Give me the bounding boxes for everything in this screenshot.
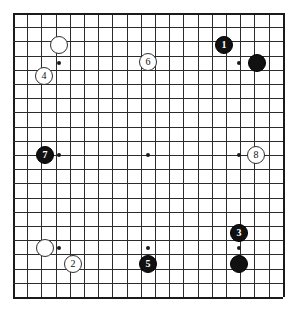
stone-black-move-1[interactable]: 1 xyxy=(215,36,233,54)
stone-white-move-4[interactable]: 4 xyxy=(35,67,53,85)
go-board[interactable]: 46178325 xyxy=(13,13,285,297)
grid-line-horizontal xyxy=(13,27,283,28)
grid-line-horizontal xyxy=(13,283,283,284)
grid-line-horizontal xyxy=(13,127,283,128)
stone-move-number: 2 xyxy=(71,259,76,269)
star-point xyxy=(57,246,61,250)
stone-black-move-3[interactable]: 3 xyxy=(230,224,248,242)
stone-white[interactable] xyxy=(36,239,54,257)
grid-line-horizontal xyxy=(13,297,283,299)
grid-line-horizontal xyxy=(13,212,283,213)
grid-line-horizontal xyxy=(13,112,283,113)
stone-move-number: 5 xyxy=(146,259,151,269)
stone-move-number: 3 xyxy=(237,228,242,238)
stone-black-move-7[interactable]: 7 xyxy=(36,146,54,164)
grid-line-horizontal xyxy=(13,84,283,85)
grid-line-horizontal xyxy=(13,169,283,170)
star-point xyxy=(57,153,61,157)
star-point xyxy=(237,61,241,65)
stone-white[interactable] xyxy=(50,36,68,54)
stone-move-number: 7 xyxy=(43,150,48,160)
stone-white-move-8[interactable]: 8 xyxy=(247,146,265,164)
stone-move-number: 8 xyxy=(254,150,259,160)
grid-line-vertical xyxy=(283,13,285,297)
star-point xyxy=(237,246,241,250)
grid-line-horizontal xyxy=(13,141,283,142)
stone-move-number: 6 xyxy=(146,57,151,67)
stone-black[interactable] xyxy=(230,255,248,273)
star-point xyxy=(146,246,150,250)
stone-black[interactable] xyxy=(248,54,266,72)
grid-line-horizontal xyxy=(13,198,283,199)
grid-line-horizontal xyxy=(13,13,283,15)
stone-move-number: 4 xyxy=(42,71,47,81)
grid-line-horizontal xyxy=(13,98,283,99)
star-point xyxy=(146,153,150,157)
go-diagram: 46178325 xyxy=(0,0,296,309)
star-point xyxy=(57,61,61,65)
stone-move-number: 1 xyxy=(222,40,227,50)
grid-line-horizontal xyxy=(13,183,283,184)
stone-white-move-2[interactable]: 2 xyxy=(64,255,82,273)
star-point xyxy=(237,153,241,157)
stone-white-move-6[interactable]: 6 xyxy=(139,53,157,71)
stone-black-move-5[interactable]: 5 xyxy=(139,255,157,273)
